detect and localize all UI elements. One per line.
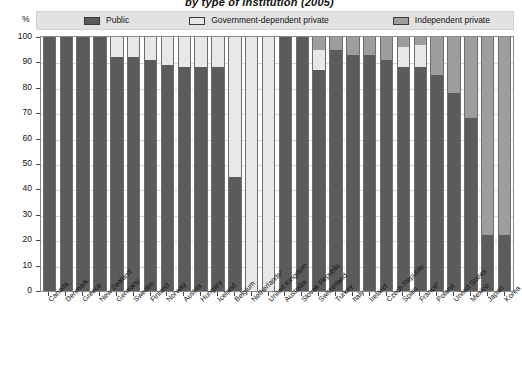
bar-segment-govdep <box>144 37 157 60</box>
legend-entry-indep: Independent private <box>393 16 490 25</box>
bar-ireland[interactable] <box>363 37 376 291</box>
bar-segment-indep <box>380 37 393 60</box>
bar-segment-govdep <box>211 37 224 67</box>
bar-segment-public <box>178 67 191 291</box>
y-tick-label-60: 60 <box>23 134 32 142</box>
legend-label-govdep: Government-dependent private <box>211 16 329 25</box>
y-tick-label-40: 40 <box>23 184 32 192</box>
bar-denmark[interactable] <box>60 37 73 291</box>
bar-segment-public <box>447 93 460 291</box>
bar-mexico[interactable] <box>464 37 477 291</box>
bar-segment-indep <box>464 37 477 118</box>
bar-czechrepublic[interactable] <box>380 37 393 291</box>
legend-swatch-indep-icon <box>393 17 409 25</box>
bar-segment-indep <box>414 37 427 45</box>
legend-swatch-govdep-icon <box>189 17 205 25</box>
bar-segment-indep <box>346 37 359 55</box>
bar-segment-govdep <box>245 37 258 291</box>
bar-segment-public <box>296 37 309 291</box>
y-tick-label-10: 10 <box>23 261 32 269</box>
chart-legend: PublicGovernment-dependent privateIndepe… <box>36 11 514 30</box>
bar-segment-indep <box>397 37 410 47</box>
bar-segment-public <box>397 67 410 291</box>
bar-slovakrepublic[interactable] <box>296 37 309 291</box>
y-tick-label-50: 50 <box>23 159 32 167</box>
bar-finland[interactable] <box>144 37 157 291</box>
bar-segment-indep <box>430 37 443 75</box>
bar-segment-public <box>329 50 342 291</box>
y-tick-label-80: 80 <box>23 83 32 91</box>
bar-segment-indep <box>329 37 342 50</box>
bar-segment-public <box>127 57 140 291</box>
bar-norway[interactable] <box>161 37 174 291</box>
bar-iceland[interactable] <box>211 37 224 291</box>
bar-segment-public <box>144 60 157 291</box>
bar-unitedkingdom[interactable] <box>262 37 275 291</box>
bar-belgium[interactable] <box>228 37 241 291</box>
bar-segment-indep <box>498 37 511 235</box>
bar-poland[interactable] <box>430 37 443 291</box>
bar-greece[interactable] <box>76 37 89 291</box>
bar-canada[interactable] <box>43 37 56 291</box>
bar-segment-govdep <box>127 37 140 57</box>
bar-italy[interactable] <box>346 37 359 291</box>
bar-korea[interactable] <box>498 37 511 291</box>
y-tick-label-20: 20 <box>23 235 32 243</box>
bar-newzealand[interactable] <box>93 37 106 291</box>
bar-austria[interactable] <box>178 37 191 291</box>
bar-segment-public <box>228 177 241 291</box>
bar-segment-public <box>93 37 106 291</box>
bar-segment-govdep <box>178 37 191 67</box>
bar-segment-public <box>464 118 477 291</box>
bar-segment-public <box>211 67 224 291</box>
bar-segment-govdep <box>312 50 325 70</box>
bar-segment-public <box>161 65 174 291</box>
bar-segment-indep <box>447 37 460 93</box>
chart-title: by type of institution (2005) <box>0 0 519 8</box>
bar-spain[interactable] <box>397 37 410 291</box>
legend-swatch-public-icon <box>84 17 100 25</box>
bar-netherlands[interactable] <box>245 37 258 291</box>
bar-series-container <box>41 37 513 291</box>
bar-segment-public <box>414 67 427 291</box>
bar-segment-govdep <box>262 37 275 291</box>
bar-segment-indep <box>363 37 376 55</box>
bar-france[interactable] <box>414 37 427 291</box>
bar-sweden[interactable] <box>127 37 140 291</box>
bar-segment-public <box>194 67 207 291</box>
bar-segment-govdep <box>397 47 410 67</box>
legend-label-public: Public <box>106 16 129 25</box>
bar-segment-public <box>279 37 292 291</box>
y-tick-label-30: 30 <box>23 210 32 218</box>
bar-segment-public <box>60 37 73 291</box>
y-tick-label-0: 0 <box>27 286 32 294</box>
bar-segment-govdep <box>414 45 427 68</box>
bar-segment-public <box>76 37 89 291</box>
bar-segment-public <box>312 70 325 291</box>
bar-germany[interactable] <box>110 37 123 291</box>
bar-segment-public <box>498 235 511 291</box>
y-tick-label-70: 70 <box>23 108 32 116</box>
bar-unitedstates[interactable] <box>447 37 460 291</box>
legend-entry-public: Public <box>84 16 129 25</box>
y-axis: 1009080706050403020100 <box>0 36 40 292</box>
bar-segment-public <box>430 75 443 291</box>
y-tick-label-100: 100 <box>18 32 32 40</box>
bar-segment-indep <box>481 37 494 235</box>
bar-segment-govdep <box>194 37 207 67</box>
bar-segment-govdep <box>110 37 123 57</box>
bar-australia[interactable] <box>279 37 292 291</box>
bar-segment-govdep <box>228 37 241 177</box>
bar-japan[interactable] <box>481 37 494 291</box>
bar-segment-public <box>363 55 376 291</box>
bar-segment-public <box>43 37 56 291</box>
bar-segment-public <box>380 60 393 291</box>
x-axis-labels: CanadaDenmarkGreeceNew ZealandGermanySwe… <box>0 296 519 370</box>
bar-segment-govdep <box>161 37 174 65</box>
bar-switzerland[interactable] <box>312 37 325 291</box>
y-axis-unit-label: % <box>22 14 30 24</box>
bar-segment-indep <box>312 37 325 50</box>
bar-turkey[interactable] <box>329 37 342 291</box>
bar-hungary[interactable] <box>194 37 207 291</box>
